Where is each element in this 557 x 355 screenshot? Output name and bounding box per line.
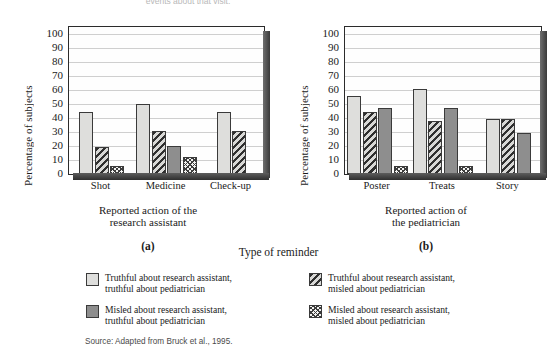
legend-item: Misled about research assistant, truthfu… <box>86 304 293 327</box>
y-tick-label: 70 <box>52 70 63 81</box>
y-tick-label: 80 <box>52 56 63 67</box>
bar <box>232 131 246 174</box>
legend-line2: misled about pediatrician <box>328 315 425 326</box>
bar-group <box>199 27 264 174</box>
bar-group <box>134 27 199 174</box>
plot-frame-a <box>68 26 265 175</box>
x-tick-label: Shot <box>91 180 110 191</box>
y-tick-label: 70 <box>328 70 339 81</box>
legend-line1: Truthful about research assistant, <box>328 272 455 283</box>
y-tick-label: 0 <box>334 168 340 179</box>
y-tick-label: 30 <box>328 126 339 137</box>
legend-line2: truthful about pediatrician <box>105 283 205 294</box>
plot-shadow-bottom-a <box>73 173 269 180</box>
plot-frame-b <box>344 26 542 175</box>
bar <box>486 119 500 174</box>
y-tick-label: 60 <box>52 84 63 95</box>
x-axis-label-b: Reported action of the pediatrician <box>326 204 526 229</box>
source-note: Source: Adapted from Bruck et al., 1995. <box>85 337 232 346</box>
bar-container-b <box>345 27 541 174</box>
legend: Truthful about research assistant, truth… <box>86 272 516 326</box>
bar-container-a <box>69 27 264 174</box>
top-clipped-caption: events about that visit. <box>78 0 298 5</box>
bar <box>347 96 361 174</box>
bar <box>444 108 458 174</box>
bar <box>428 121 442 174</box>
x-axis-label-b-line2: the pediatrician <box>326 216 526 228</box>
legend-line1: Truthful about research assistant, <box>105 272 232 283</box>
y-axis-label-a: Percentage of subjects <box>22 56 34 186</box>
y-tick-label: 0 <box>58 168 64 179</box>
y-axis-ticks-a: 0102030405060708090100 <box>42 26 66 173</box>
plot-shadow-right-a <box>263 31 270 178</box>
legend-line1: Misled about research assistant, <box>328 304 450 315</box>
legend-label-misled-truthful: Misled about research assistant, truthfu… <box>105 304 227 327</box>
y-tick-label: 20 <box>328 140 339 151</box>
x-axis-ticks-b: PosterTreatsStory <box>344 180 540 194</box>
legend-label-misled-misled: Misled about research assistant, misled … <box>328 304 450 327</box>
y-tick-label: 100 <box>323 28 340 39</box>
legend-label-truthful-misled: Truthful about research assistant, misle… <box>328 272 455 295</box>
bar <box>183 157 197 174</box>
x-tick-label: Poster <box>364 180 390 191</box>
x-axis-label-a: Reported action of the research assistan… <box>48 204 248 229</box>
y-tick-label: 40 <box>52 112 63 123</box>
legend-swatch-misled-truthful <box>86 305 99 318</box>
bar <box>136 104 150 174</box>
bar <box>79 112 93 174</box>
legend-item: Truthful about research assistant, misle… <box>309 272 516 295</box>
y-tick-label: 90 <box>52 42 63 53</box>
bar-group <box>345 27 410 174</box>
x-axis-label-a-line1: Reported action of the <box>48 204 248 216</box>
bar-group <box>69 27 134 174</box>
bar <box>378 108 392 174</box>
chart-panel-b: Percentage of subjects 01020304050607080… <box>278 18 557 258</box>
legend-label-truthful-truthful: Truthful about research assistant, truth… <box>105 272 232 295</box>
chart-panel-a: Percentage of subjects 01020304050607080… <box>0 18 280 258</box>
legend-line2: truthful about pediatrician <box>105 315 205 326</box>
y-axis-label-b: Percentage of subjects <box>298 56 310 186</box>
legend-item: Misled about research assistant, misled … <box>309 304 516 327</box>
y-tick-label: 30 <box>52 126 63 137</box>
bar <box>95 147 109 174</box>
y-tick-label: 20 <box>52 140 63 151</box>
y-axis-ticks-b: 0102030405060708090100 <box>318 26 342 173</box>
bar <box>517 133 531 174</box>
y-tick-label: 80 <box>328 56 339 67</box>
bar-group <box>476 27 541 174</box>
y-tick-label: 60 <box>328 84 339 95</box>
legend-swatch-misled-misled <box>309 305 322 318</box>
x-tick-label: Treats <box>429 180 455 191</box>
y-tick-label: 40 <box>328 112 339 123</box>
plot-shadow-right-b <box>540 31 547 178</box>
bar <box>152 131 166 174</box>
x-tick-label: Medicine <box>146 180 186 191</box>
y-tick-label: 10 <box>52 154 63 165</box>
plot-shadow-bottom-b <box>349 173 546 180</box>
legend-item: Truthful about research assistant, truth… <box>86 272 293 295</box>
bar <box>363 112 377 174</box>
x-axis-label-a-line2: research assistant <box>48 216 248 228</box>
figure-root: events about that visit. Percentage of s… <box>0 0 557 355</box>
y-tick-label: 100 <box>47 28 64 39</box>
legend-swatch-truthful-misled <box>309 273 322 286</box>
x-tick-label: Story <box>496 180 519 191</box>
bar-group <box>410 27 475 174</box>
legend-swatch-truthful-truthful <box>86 273 99 286</box>
y-tick-label: 90 <box>328 42 339 53</box>
y-tick-label: 50 <box>52 98 63 109</box>
x-tick-label: Check-up <box>210 180 251 191</box>
x-axis-label-b-line1: Reported action of <box>326 204 526 216</box>
y-tick-label: 10 <box>328 154 339 165</box>
legend-line2: misled about pediatrician <box>328 283 425 294</box>
legend-title: Type of reminder <box>0 246 557 258</box>
y-tick-label: 50 <box>328 98 339 109</box>
bar <box>413 89 427 174</box>
bar <box>217 112 231 174</box>
x-axis-ticks-a: ShotMedicineCheck-up <box>68 180 263 194</box>
legend-line1: Misled about research assistant, <box>105 304 227 315</box>
bar <box>501 119 515 174</box>
bar <box>167 146 181 174</box>
